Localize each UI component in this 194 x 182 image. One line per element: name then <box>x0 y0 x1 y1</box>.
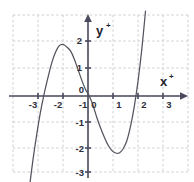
y-tick-label-minus3: -3 <box>76 167 84 178</box>
x-tick-label-2: 2 <box>141 99 146 110</box>
x-axis-tick-labels: -3 -2 -1 0 1 2 3 <box>29 99 172 110</box>
y-tick-label-minus1: -1 <box>76 117 85 128</box>
cubic-function-graph: -3 -2 -1 0 1 2 3 2 1 0 -1 -2 -3 y + x + <box>0 0 194 182</box>
y-tick-label-1: 1 <box>77 62 83 73</box>
graph-canvas: -3 -2 -1 0 1 2 3 2 1 0 -1 -2 -3 y + x + <box>0 0 194 182</box>
y-tick-label-0: 0 <box>79 84 84 95</box>
x-tick-label-minus1: -1 <box>79 99 88 110</box>
x-axis-arrowhead-icon <box>180 92 188 100</box>
x-tick-label-3: 3 <box>166 99 171 110</box>
y-axis-name-group: y + <box>96 21 111 38</box>
y-tick-label-2: 2 <box>77 35 82 46</box>
x-axis-label: x <box>160 74 168 89</box>
x-tick-label-minus2: -2 <box>54 99 62 110</box>
y-axis-label: y <box>96 23 104 38</box>
y-axis-label-superscript: + <box>106 21 111 30</box>
x-tick-label-minus3: -3 <box>29 99 37 110</box>
x-axis-label-superscript: + <box>169 72 174 81</box>
x-tick-label-1: 1 <box>116 99 122 110</box>
grid-horizontal-lines <box>13 15 188 172</box>
y-tick-label-minus2: -2 <box>76 143 84 154</box>
x-axis-name-group: x + <box>160 72 174 89</box>
x-tick-label-0: 0 <box>91 99 96 110</box>
